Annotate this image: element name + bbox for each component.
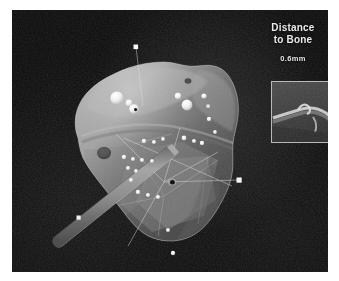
drill-entry-hole [168, 179, 177, 186]
ultrasound-slice-inset[interactable] [271, 81, 328, 143]
slice-image [272, 82, 328, 142]
render-viewport[interactable]: Distance to Bone 0.6mm [12, 10, 328, 272]
bone-body [67, 55, 252, 250]
screenshot-root: Distance to Bone 0.6mm [0, 0, 339, 281]
